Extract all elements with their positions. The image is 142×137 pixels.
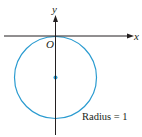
y-axis-label: y [51, 3, 57, 15]
origin-label: O [46, 38, 54, 50]
y-axis-arrow-icon [53, 15, 58, 22]
x-axis-label: x [133, 30, 139, 42]
radius-annotation: Radius = 1 [82, 111, 128, 122]
x-axis-arrow-icon [127, 34, 134, 39]
diagram-canvas: y x O Radius = 1 [0, 0, 142, 137]
